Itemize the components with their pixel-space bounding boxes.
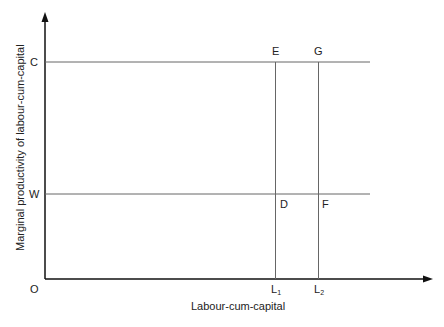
tick-l2: L2 bbox=[314, 283, 324, 299]
point-f: F bbox=[322, 198, 329, 210]
x-axis-arrow-icon bbox=[423, 276, 433, 283]
tick-l1-sub: 1 bbox=[277, 289, 281, 296]
tick-l2-sub: 2 bbox=[320, 289, 324, 296]
y-axis-arrow-icon bbox=[42, 12, 49, 22]
origin-label: O bbox=[30, 283, 39, 295]
point-e: E bbox=[272, 45, 279, 57]
tick-l1: L1 bbox=[271, 283, 281, 299]
point-g: G bbox=[314, 45, 323, 57]
point-d: D bbox=[280, 198, 288, 210]
tick-w: W bbox=[29, 188, 39, 200]
y-axis-label: Marginal productivity of labour-cum-capi… bbox=[14, 44, 26, 251]
x-axis-label: Labour-cum-capital bbox=[191, 300, 285, 312]
diagram-canvas bbox=[0, 0, 444, 327]
tick-c: C bbox=[30, 56, 38, 68]
